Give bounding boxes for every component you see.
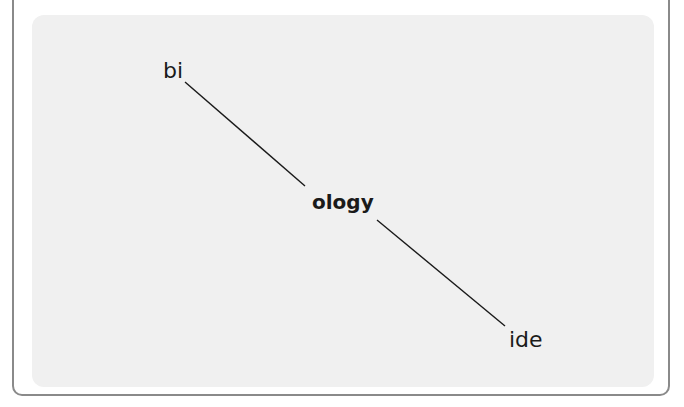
node-root: ology xyxy=(312,192,374,212)
node-suffix: ide xyxy=(509,329,543,351)
node-prefix: bi xyxy=(163,60,183,82)
